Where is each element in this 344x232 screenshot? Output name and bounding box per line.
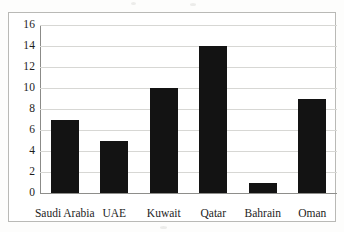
- y-tick-label: 2: [13, 166, 35, 178]
- axis-baseline: [40, 193, 337, 194]
- y-tick-label: 6: [13, 124, 35, 136]
- gridline: [40, 109, 337, 110]
- y-axis-tick-labels: 0246810121416: [9, 13, 35, 232]
- gridline: [40, 46, 337, 47]
- chart-frame: 0246810121416 Saudi ArabiaUAEKuwaitQatar…: [8, 12, 336, 222]
- gridline: [40, 130, 337, 131]
- y-tick-label: 4: [13, 145, 35, 157]
- scan-artifact: [190, 3, 196, 6]
- gridline: [40, 172, 337, 173]
- gridline: [40, 67, 337, 68]
- bar: [298, 99, 326, 194]
- scan-artifact: [160, 226, 167, 229]
- bar: [150, 88, 178, 193]
- figure: 0246810121416 Saudi ArabiaUAEKuwaitQatar…: [0, 0, 344, 232]
- y-tick-label: 10: [13, 82, 35, 94]
- gridline: [40, 88, 337, 89]
- x-tick-label: Saudi Arabia: [35, 207, 95, 220]
- x-tick-label: Oman: [298, 207, 326, 220]
- scan-artifact: [131, 2, 136, 5]
- bar: [249, 183, 277, 194]
- x-tick-label: UAE: [102, 207, 126, 220]
- plot-area: [40, 25, 337, 193]
- gridline: [40, 25, 337, 26]
- y-tick-label: 14: [13, 40, 35, 52]
- bar: [51, 120, 79, 194]
- bar: [199, 46, 227, 193]
- y-tick-label: 0: [13, 187, 35, 199]
- x-tick-label: Qatar: [200, 207, 226, 220]
- x-tick-label: Kuwait: [147, 207, 181, 220]
- y-tick-label: 16: [13, 19, 35, 31]
- y-tick-label: 8: [13, 103, 35, 115]
- y-tick-label: 12: [13, 61, 35, 73]
- gridline: [40, 151, 337, 152]
- x-tick-label: Bahrain: [245, 207, 281, 220]
- bar: [100, 141, 128, 194]
- x-axis-tick-labels: Saudi ArabiaUAEKuwaitQatarBahrainOman: [40, 207, 337, 227]
